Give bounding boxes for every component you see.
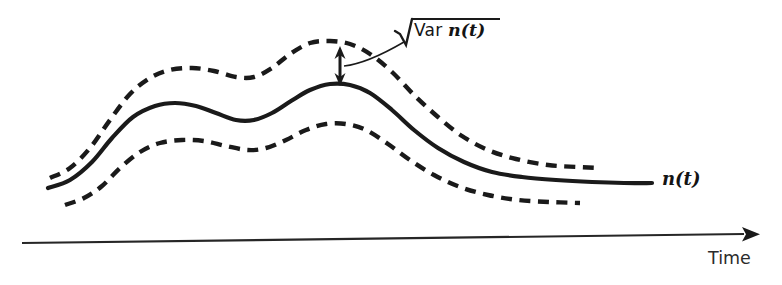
variance-envelope-figure: Var n(t) n(t) Time <box>0 0 782 285</box>
plot-canvas <box>0 0 782 285</box>
time-axis-line <box>22 234 744 243</box>
sqrt-variance-label-variable: n(t) <box>448 20 485 40</box>
sqrt-variance-label-prefix: Var <box>414 20 448 40</box>
time-axis-label: Time <box>708 250 751 268</box>
lower-standard-deviation-curve <box>65 123 580 205</box>
sqrt-variance-label: Var n(t) <box>414 22 485 40</box>
mean-population-curve <box>48 84 652 188</box>
time-axis <box>22 227 760 243</box>
standard-deviation-double-arrow <box>335 46 346 86</box>
time-axis-arrowhead <box>742 227 760 242</box>
mean-curve-label: n(t) <box>662 170 700 188</box>
